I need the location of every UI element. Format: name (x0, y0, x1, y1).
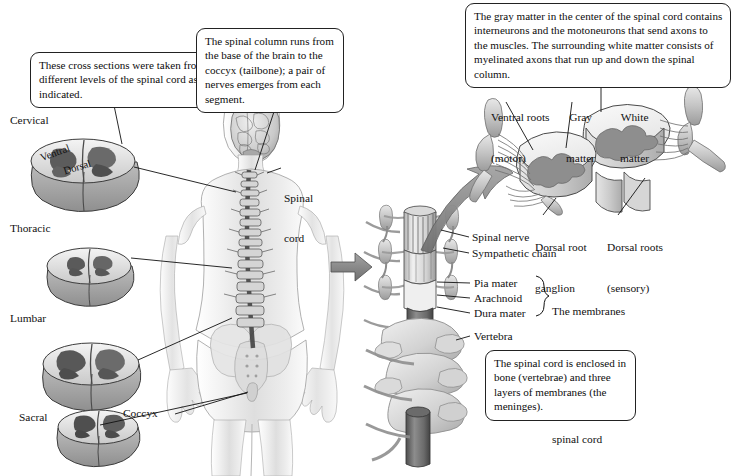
label-ventral-roots-line1: Ventral roots (491, 111, 550, 125)
label-spinal-cord: Spinal cord (284, 165, 313, 273)
callout-spinal-column: The spinal column runs from the base of … (196, 28, 344, 113)
label-vertebra: Vertebra (474, 330, 513, 344)
cross-section-lumbar (43, 343, 141, 411)
label-white-matter: White matter (620, 84, 649, 194)
label-spinal-cord-line1: Spinal (284, 192, 313, 205)
label-dorsal-root-ganglion-line1: Dorsal root (535, 241, 587, 255)
callout-enclosed-in-bone: The spinal cord is enclosed in bone (ver… (485, 350, 636, 421)
label-coccyx: Coccyx (123, 407, 158, 421)
label-dorsal-roots-line2: (sensory) (607, 282, 663, 296)
label-dura-mater: Dura mater (474, 307, 526, 321)
callout-spinal-column-text: The spinal column runs from the base of … (205, 34, 336, 106)
label-sacral: Sacral (19, 411, 47, 425)
label-spinal-cord-line2: cord (284, 232, 313, 245)
label-gray-matter: Gray matter (566, 84, 595, 194)
label-lumbar: Lumbar (10, 312, 46, 326)
note-meninges-line4: spinal cord (552, 432, 625, 446)
label-ventral-roots-line2: (motor) (491, 152, 550, 166)
label-arachnoid: Arachnoid (474, 292, 522, 306)
label-gray-matter-line1: Gray (566, 111, 595, 125)
label-white-matter-line2: matter (620, 152, 649, 166)
callout-gray-matter: The gray matter in the center of the spi… (465, 3, 731, 88)
label-dorsal-root-ganglion: Dorsal root ganglion (535, 214, 587, 324)
label-white-matter-line1: White (620, 111, 649, 125)
cross-section-thoracic (47, 248, 134, 306)
label-dorsal-roots-line1: Dorsal roots (607, 241, 663, 255)
figure-canvas: These cross sections were taken from dif… (0, 0, 737, 476)
label-pia-mater: Pia mater (474, 277, 517, 291)
label-spinal-nerve: Spinal nerve (472, 231, 529, 245)
callout-cross-sections-text: These cross sections were taken from dif… (39, 58, 212, 101)
vertebra-detail (364, 205, 467, 467)
label-dorsal-roots: Dorsal roots (sensory) (607, 214, 663, 324)
callout-enclosed-in-bone-text: The spinal cord is enclosed in bone (ver… (494, 356, 628, 414)
label-gray-matter-line2: matter (566, 152, 595, 166)
callout-gray-matter-text: The gray matter in the center of the spi… (474, 9, 723, 81)
label-thoracic: Thoracic (10, 222, 50, 236)
human-figure (160, 75, 344, 476)
callout-cross-sections: These cross sections were taken from dif… (30, 52, 220, 108)
label-cervical: Cervical (10, 114, 49, 128)
label-dorsal-root-ganglion-line2: ganglion (535, 282, 587, 296)
label-ventral-roots: Ventral roots (motor) (491, 84, 550, 194)
